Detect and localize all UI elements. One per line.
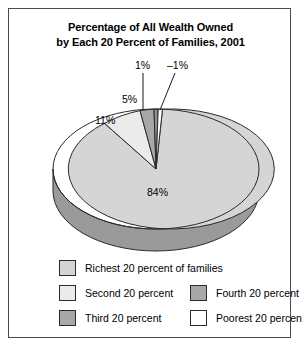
legend-label-richest: Richest 20 percent of families [85, 262, 223, 274]
pie-label-third: 5% [122, 93, 137, 105]
chart-frame: Percentage of All Wealth Owned by Each 2… [8, 8, 291, 338]
legend-label-poorest: Poorest 20 percent [216, 312, 302, 324]
pie-label-poorest-callout: –1% [167, 59, 188, 71]
pie-label-second: 11% [95, 114, 115, 126]
pie-chart-area: 1% –1% 5% 11% 84% [9, 9, 292, 254]
legend-label-fourth: Fourth 20 percent [216, 287, 299, 299]
chart-legend: Richest 20 percent of families Second 20… [9, 258, 292, 338]
legend-label-third: Third 20 percent [85, 312, 161, 324]
legend-item-second: Second 20 percent [59, 285, 173, 301]
pie-label-fourth-callout: 1% [135, 59, 150, 71]
legend-swatch-fourth [190, 285, 207, 301]
legend-label-second: Second 20 percent [85, 287, 173, 299]
legend-item-third: Third 20 percent [59, 310, 161, 326]
legend-swatch-richest [59, 260, 76, 276]
legend-swatch-second [59, 285, 76, 301]
legend-item-richest: Richest 20 percent of families [59, 260, 223, 276]
pie-label-richest: 84% [147, 186, 168, 198]
pie-top-face [53, 109, 274, 229]
pie-slice-richest [68, 109, 274, 229]
leader-line-minus-1-percent [160, 73, 175, 110]
legend-swatch-third [59, 310, 76, 326]
legend-item-poorest: Poorest 20 percent [190, 310, 302, 326]
callout-leader-lines [143, 73, 175, 110]
legend-item-fourth: Fourth 20 percent [190, 285, 299, 301]
pie-chart-graphic [9, 9, 292, 254]
legend-swatch-poorest [190, 310, 207, 326]
